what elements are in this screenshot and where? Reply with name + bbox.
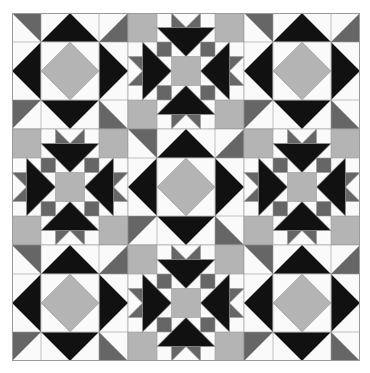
diamond-block [244, 245, 360, 361]
star-block [128, 245, 244, 361]
star-block [12, 129, 128, 245]
diamond-block [12, 245, 128, 361]
diamond-block [128, 129, 244, 245]
diamond-block [244, 13, 360, 129]
quilt-pattern [12, 13, 360, 361]
diamond-block [12, 13, 128, 129]
star-block [244, 129, 360, 245]
star-block [128, 13, 244, 129]
